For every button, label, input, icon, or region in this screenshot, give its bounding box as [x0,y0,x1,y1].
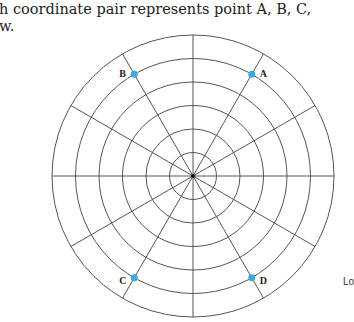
point-label-a: A [260,68,268,79]
radial-line-30 [193,106,315,177]
polar-grid-diagram: ABCD [0,0,354,322]
radial-line-150 [71,106,193,177]
point-d [248,274,255,281]
point-label-b: B [119,68,126,79]
point-label-c: C [119,275,126,286]
radial-line-330 [193,176,315,247]
point-b [131,71,138,78]
point-label-d: D [260,275,267,286]
point-a [248,71,255,78]
radial-line-210 [71,176,193,247]
origin-point [191,174,195,178]
point-c [131,274,138,281]
